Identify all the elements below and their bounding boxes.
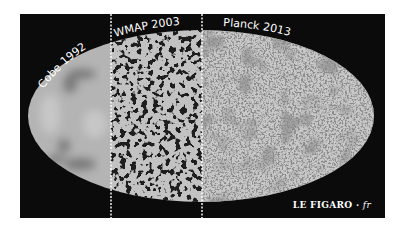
wmap-map-section: [111, 14, 202, 218]
cobe-map-section: [20, 14, 111, 218]
brand-suffix: fr: [363, 200, 371, 210]
brand-name: LE FIGARO: [293, 200, 353, 210]
cmb-sky-map: Cobe 1992 WMAP 2003 Planck 2013: [20, 14, 385, 218]
le-figaro-logo: LE FIGARO · fr: [293, 200, 371, 210]
cmb-figure-panel: Cobe 1992 WMAP 2003 Planck 2013 LE FIGAR…: [20, 14, 385, 218]
planck-map-section: [202, 14, 385, 218]
brand-separator: ·: [356, 200, 359, 210]
